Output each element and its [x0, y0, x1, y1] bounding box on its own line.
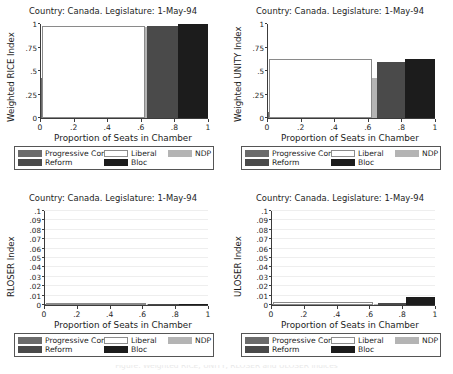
- x-tick-label: .2: [73, 310, 80, 319]
- x-tick-mark: [304, 306, 305, 309]
- y-tick-label: .01: [30, 291, 41, 300]
- legend-swatch-bloc-icon: [331, 346, 355, 353]
- legend-item-reform[interactable]: Reform: [245, 158, 299, 167]
- x-tick-label: 0: [42, 310, 47, 319]
- plot-area-rloser: 0.01.02.03.04.05.06.07.08.09.10.2.4.6.81: [44, 211, 208, 306]
- x-tick-mark: [369, 306, 370, 309]
- legend-row: Progressive ConLiberalNDP: [18, 336, 210, 345]
- y-tick-label: .01: [257, 291, 268, 300]
- legend-item-bloc[interactable]: Bloc: [104, 345, 147, 354]
- legend-item-bloc[interactable]: Bloc: [104, 158, 147, 167]
- legend-label: Liberal: [131, 149, 157, 158]
- legend-label: Bloc: [358, 345, 374, 354]
- y-tick-label: 1: [32, 20, 37, 29]
- x-tick-label: 0: [265, 123, 270, 132]
- x-tick-mark: [301, 119, 302, 122]
- gridline: [271, 210, 435, 211]
- legend-item-pc[interactable]: Progressive Con: [18, 149, 106, 158]
- legend-item-reform[interactable]: Reform: [18, 158, 72, 167]
- y-tick-label: 0: [259, 114, 264, 123]
- y-axis-line: [271, 211, 272, 306]
- y-axis-label-rice: Weighted RICE Index: [6, 32, 16, 122]
- gridline: [271, 276, 435, 277]
- y-tick-label: .02: [30, 282, 41, 291]
- panel-unity: Country: Canada. Legislature: 1-May-94 W…: [227, 0, 453, 187]
- legend-item-liberal[interactable]: Liberal: [104, 149, 157, 158]
- y-tick-label: 1: [259, 20, 264, 29]
- gridline: [44, 295, 208, 296]
- y-tick-label: .1: [34, 207, 41, 216]
- x-tick-mark: [174, 119, 175, 122]
- legend-item-reform[interactable]: Reform: [18, 345, 72, 354]
- y-tick-mark: [269, 229, 272, 230]
- y-tick-label: .08: [30, 225, 41, 234]
- gridline: [271, 219, 435, 220]
- bar-reform: [377, 62, 405, 118]
- legend-row: Progressive ConLiberalNDP: [245, 149, 437, 158]
- y-tick-label: .04: [30, 263, 41, 272]
- x-tick-mark: [334, 119, 335, 122]
- legend-item-liberal[interactable]: Liberal: [104, 336, 157, 345]
- legend-item-pc[interactable]: Progressive Con: [18, 336, 106, 345]
- panel-title-uloser: Country: Canada. Legislature: 1-May-94: [227, 193, 453, 203]
- x-tick-label: .2: [300, 310, 307, 319]
- x-tick-mark: [142, 306, 143, 309]
- legend-item-bloc[interactable]: Bloc: [331, 345, 374, 354]
- legend-item-pc[interactable]: Progressive Con: [245, 149, 333, 158]
- y-tick-mark: [38, 117, 41, 118]
- y-tick-mark: [42, 266, 45, 267]
- legend-item-ndp[interactable]: NDP: [395, 149, 438, 158]
- y-tick-mark: [269, 248, 272, 249]
- legend-unity: Progressive ConLiberalNDPReformBloc: [241, 146, 441, 170]
- y-tick-mark: [42, 229, 45, 230]
- x-tick-label: .4: [331, 123, 338, 132]
- y-tick-mark: [38, 94, 41, 95]
- y-tick-mark: [42, 238, 45, 239]
- gridline: [271, 257, 435, 258]
- legend-label: Progressive Con: [272, 336, 333, 345]
- x-tick-label: .4: [333, 310, 340, 319]
- y-tick-mark: [269, 257, 272, 258]
- y-tick-label: .04: [257, 263, 268, 272]
- plot-area-uloser: 0.01.02.03.04.05.06.07.08.09.10.2.4.6.81: [271, 211, 435, 306]
- legend-label: Bloc: [131, 158, 147, 167]
- gridline: [271, 238, 435, 239]
- y-tick-label: 0: [32, 114, 37, 123]
- bar-reform: [147, 26, 178, 118]
- legend-label: Progressive Con: [45, 336, 106, 345]
- legend-item-ndp[interactable]: NDP: [168, 336, 211, 345]
- legend-label: Liberal: [358, 149, 384, 158]
- y-tick-label: 0: [36, 301, 41, 310]
- x-tick-mark: [175, 306, 176, 309]
- gridline: [44, 276, 208, 277]
- gridline: [44, 266, 208, 267]
- y-axis-line: [267, 24, 268, 119]
- legend-item-pc[interactable]: Progressive Con: [245, 336, 333, 345]
- legend-row: ReformBloc: [18, 158, 210, 167]
- legend-label: Reform: [45, 158, 72, 167]
- x-tick-label: 1: [433, 123, 438, 132]
- legend-item-ndp[interactable]: NDP: [395, 336, 438, 345]
- gridline: [44, 248, 208, 249]
- legend-swatch-bloc-icon: [104, 159, 128, 166]
- legend-item-bloc[interactable]: Bloc: [331, 158, 374, 167]
- legend-item-liberal[interactable]: Liberal: [331, 149, 384, 158]
- panel-rloser: Country: Canada. Legislature: 1-May-94 R…: [0, 187, 226, 374]
- legend-swatch-ndp-icon: [395, 337, 419, 344]
- legend-item-ndp[interactable]: NDP: [168, 149, 211, 158]
- legend-label: Liberal: [131, 336, 157, 345]
- x-tick-label: 0: [38, 123, 43, 132]
- bar-bloc: [406, 297, 435, 305]
- legend-item-liberal[interactable]: Liberal: [331, 336, 384, 345]
- legend-swatch-liberal-icon: [104, 150, 128, 157]
- panel-title-rloser: Country: Canada. Legislature: 1-May-94: [0, 193, 226, 203]
- y-tick-label: .06: [30, 244, 41, 253]
- x-axis-line: [271, 305, 435, 306]
- y-tick-mark: [42, 210, 45, 211]
- y-tick-mark: [42, 304, 45, 305]
- x-tick-mark: [77, 306, 78, 309]
- gridline: [44, 210, 208, 211]
- gridline: [44, 285, 208, 286]
- legend-item-reform[interactable]: Reform: [245, 345, 299, 354]
- legend-rice: Progressive ConLiberalNDPReformBloc: [14, 146, 214, 170]
